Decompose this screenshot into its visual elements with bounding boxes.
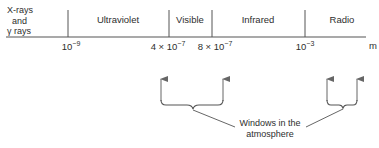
- tick-exponent: −7: [177, 40, 185, 47]
- tick-base: 4 × 10: [151, 41, 178, 52]
- spectrum-diagram: X-rays and γ rays Ultraviolet Visible In…: [0, 0, 379, 148]
- unit-label: m: [369, 41, 377, 51]
- band-label-xrays-line2: and: [7, 16, 57, 27]
- tick-exponent: −9: [72, 40, 80, 47]
- band-label-visible: Visible: [176, 15, 204, 25]
- brace-radio-window: [327, 100, 357, 108]
- caption-line2: atmosphere: [239, 129, 300, 140]
- band-label-xrays-line1: X-rays: [7, 5, 57, 16]
- tick-label-1e-9: 10−9: [62, 42, 81, 52]
- tick-exponent: −3: [306, 40, 314, 47]
- leader-line-radio: [306, 109, 343, 127]
- leader-line-optical: [193, 110, 235, 127]
- brace-optical-window: [161, 100, 223, 109]
- tick-label-1e-3: 10−3: [296, 42, 315, 52]
- band-label-xrays-line3: γ rays: [7, 26, 57, 37]
- band-label-infrared: Infrared: [242, 15, 275, 25]
- windows-caption: Windows in the atmosphere: [239, 118, 300, 140]
- tick-base: 10: [62, 41, 73, 52]
- band-label-xrays-gamma: X-rays and γ rays: [7, 5, 57, 37]
- tick-base: 10: [296, 41, 307, 52]
- band-label-radio: Radio: [330, 15, 355, 25]
- caption-line1: Windows in the: [239, 118, 300, 129]
- tick-label-4e-7: 4 × 10−7: [151, 42, 186, 52]
- tick-exponent: −7: [224, 40, 232, 47]
- tick-label-8e-7: 8 × 10−7: [198, 42, 233, 52]
- band-label-ultraviolet: Ultraviolet: [97, 15, 139, 25]
- tick-base: 8 × 10: [198, 41, 225, 52]
